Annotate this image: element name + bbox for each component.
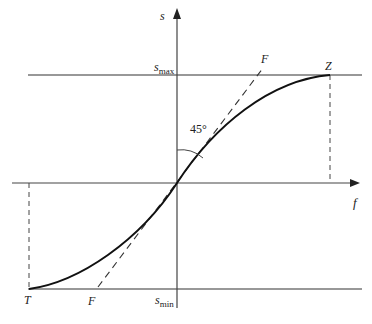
diagonal-upper-label: F	[260, 52, 269, 66]
f-axis-arrow-icon	[350, 179, 360, 187]
s-max-label: smax	[154, 60, 175, 76]
diagonal-lower-label: F	[87, 294, 96, 308]
s-min-label: smin	[155, 293, 174, 309]
f-axis-label: f	[353, 195, 359, 210]
sigmoid-saturation-diagram: s f smax smin Z T F F 45°	[0, 0, 372, 324]
sigmoid-curve	[29, 75, 330, 289]
point-z-label: Z	[325, 59, 332, 73]
s-axis-label: s	[160, 9, 165, 23]
s-axis-arrow-icon	[173, 8, 181, 19]
point-t-label: T	[24, 293, 32, 307]
angle-label: 45°	[190, 122, 207, 136]
